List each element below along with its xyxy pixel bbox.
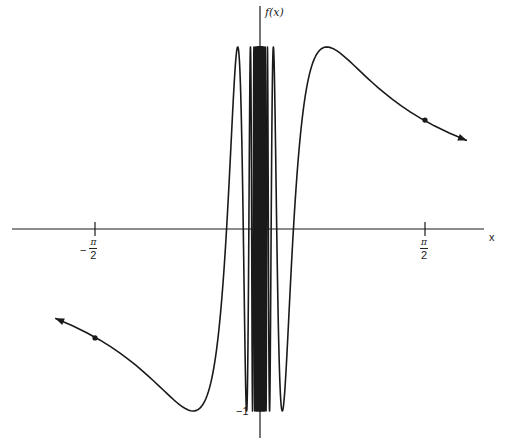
left-arrow-icon — [55, 318, 65, 325]
x-axis-label: x — [489, 231, 495, 243]
minus-sign: − — [80, 244, 86, 256]
x-tick-label-pi-half: π 2 — [420, 238, 428, 261]
sin-inverse-x-plot — [0, 0, 509, 445]
fraction: π 2 — [420, 238, 428, 261]
highlighted-point — [422, 117, 427, 122]
fraction-numerator: π — [89, 238, 97, 249]
fraction-denominator: 2 — [90, 249, 96, 261]
right-arrow-icon — [457, 134, 467, 141]
fraction-denominator: 2 — [421, 249, 427, 261]
highlighted-point — [92, 335, 97, 340]
x-tick-label-neg-pi-half: − π 2 — [80, 238, 97, 261]
y-axis-label: f(x) — [265, 6, 284, 19]
y-tick-label-minus-one: −1 — [236, 405, 249, 417]
fraction: π 2 — [89, 238, 97, 261]
fraction-numerator: π — [420, 238, 428, 249]
